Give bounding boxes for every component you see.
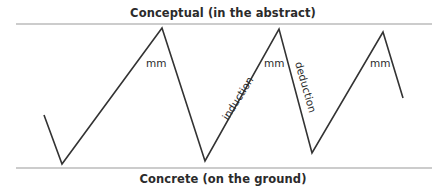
reasoning-zigzag-line (44, 28, 403, 164)
mm-label-3: mm (370, 57, 390, 69)
mm-label-2: mm (264, 57, 284, 69)
deduction-label: deduction (293, 60, 319, 114)
induction-deduction-zigzag-diagram: mm mm mm induction deduction (0, 0, 446, 188)
mm-label-1: mm (146, 57, 166, 69)
induction-label: induction (220, 74, 256, 122)
